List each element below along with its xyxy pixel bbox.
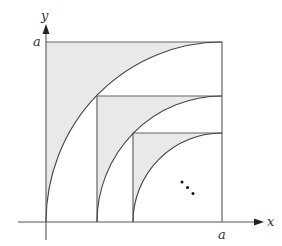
y-axis-label: y — [40, 8, 49, 23]
y-axis-arrow-icon — [43, 24, 50, 34]
x-axis-label: x — [267, 214, 275, 229]
ellipsis-dots — [181, 181, 195, 196]
shaded-region-3 — [133, 133, 222, 222]
nested-squares-diagram: x y a a — [0, 0, 282, 246]
x-axis-arrow-icon — [254, 219, 264, 226]
x-tick-label-a: a — [218, 227, 226, 242]
y-tick-label-a: a — [33, 34, 41, 49]
